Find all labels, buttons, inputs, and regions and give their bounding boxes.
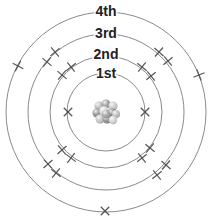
shell-label-4th: 4th — [96, 3, 117, 19]
electron-marker-icon — [13, 61, 24, 72]
shell-label-2nd: 2nd — [94, 46, 119, 62]
nucleon-shade — [102, 110, 110, 118]
electron-marker-icon — [101, 207, 109, 215]
electron-marker-icon — [193, 69, 204, 80]
electron-marker-icon — [42, 57, 51, 66]
nucleon-shade — [109, 116, 117, 124]
electron-marker-icon — [66, 62, 75, 71]
electron-marker-icon — [50, 47, 59, 56]
electron-marker-icon — [57, 70, 66, 79]
nucleus-icon — [93, 100, 121, 125]
electron-marker-icon — [152, 170, 161, 179]
electron-marker-icon — [145, 143, 154, 152]
electron-marker-icon — [51, 168, 60, 177]
shell-label-3rd: 3rd — [95, 25, 117, 41]
shell-label-1st: 1st — [96, 65, 117, 81]
electron-marker-icon — [44, 160, 53, 169]
electron-marker-icon — [64, 108, 72, 116]
shell-labels: 1st2nd3rd4th — [94, 3, 119, 81]
atom-shell-diagram: 1st2nd3rd4th — [0, 0, 209, 222]
